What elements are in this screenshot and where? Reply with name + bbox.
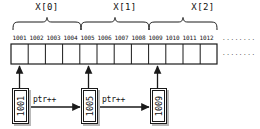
pointer-box-label: 1009 [141, 98, 177, 115]
memory-cell-row [11, 44, 217, 64]
pointer-box-1009[interactable]: 1009 [150, 88, 167, 124]
transition-label-1: ptr++ [102, 95, 125, 104]
diagram-canvas: X[0] X[1] X[2] 1001 1002 1003 1004 1005 … [0, 0, 260, 129]
diagram-vector-layer [0, 0, 260, 129]
group-brace-2 [149, 18, 217, 31]
transition-label-0: ptr++ [33, 95, 56, 104]
pointer-box-1005[interactable]: 1005 [81, 88, 98, 124]
group-brace-1 [81, 18, 149, 31]
group-brace-0 [13, 18, 81, 31]
pointer-box-1001[interactable]: 1001 [12, 88, 29, 124]
